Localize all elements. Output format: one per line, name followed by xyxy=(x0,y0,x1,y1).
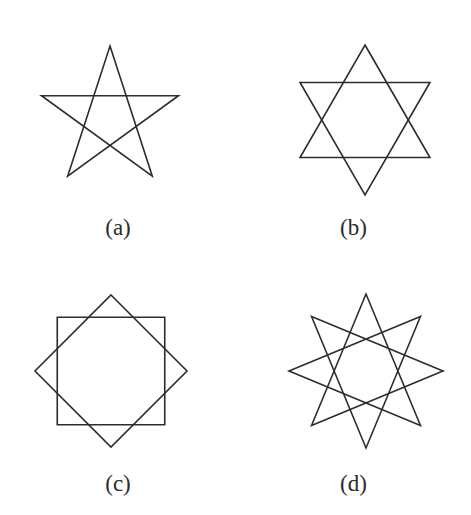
star-8-3-shape xyxy=(289,294,443,448)
figure-root: (a) (b) (c) (d) xyxy=(0,0,471,515)
octagram-svg xyxy=(0,258,236,471)
panel-b: (b) xyxy=(236,0,471,258)
octagram-shape xyxy=(35,295,187,447)
hexagram-svg xyxy=(236,0,471,215)
hexagram-subpath-1 xyxy=(300,83,430,196)
hexagram-shape xyxy=(300,45,430,195)
panel-label-b: (b) xyxy=(236,216,471,239)
star-8-3-svg xyxy=(236,258,471,471)
hexagram-subpath-0 xyxy=(300,45,430,158)
panel-d: (d) xyxy=(236,258,471,515)
star-polygon-8-3-subpath-0 xyxy=(289,294,443,448)
panel-a: (a) xyxy=(0,0,236,258)
panel-c: (c) xyxy=(0,258,236,515)
panel-label-c: (c) xyxy=(0,472,236,495)
pentagram-shape xyxy=(42,46,179,176)
panel-label-a: (a) xyxy=(0,216,236,239)
pentagram-subpath-0 xyxy=(42,46,179,176)
pentagram-svg xyxy=(0,0,236,215)
panel-label-d: (d) xyxy=(236,472,471,495)
